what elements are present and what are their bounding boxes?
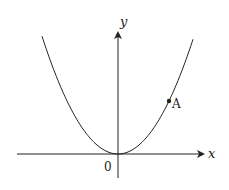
point-a-label: A: [171, 97, 181, 111]
x-axis-label: x: [208, 146, 216, 161]
point-a-marker: [167, 99, 171, 103]
y-axis-label: y: [119, 14, 128, 29]
diagram-canvas: x y 0 A: [0, 0, 229, 190]
origin-label: 0: [104, 160, 112, 174]
